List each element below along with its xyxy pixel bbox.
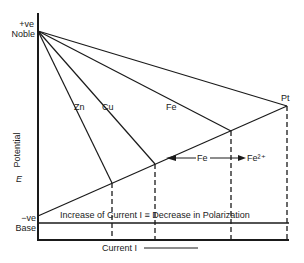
y-axis-label: Potential xyxy=(12,132,22,167)
pt-label: Pt xyxy=(281,93,290,103)
pt-line xyxy=(38,31,287,106)
reaction-left-label: Fe xyxy=(197,153,208,163)
arrow-right-icon xyxy=(238,155,246,161)
arrow-left-icon xyxy=(166,155,176,161)
y-top-label: Noble xyxy=(11,29,35,39)
cu-line xyxy=(38,31,155,164)
x-axis-label: Current I xyxy=(102,243,137,253)
polarization-diagram: +ve Noble Potential E −ve Base Zn Cu Fe … xyxy=(0,0,304,263)
y-bottom-label: Base xyxy=(15,223,36,233)
reaction-right-label: Fe²⁺ xyxy=(247,153,266,163)
y-bottom-sign: −ve xyxy=(21,213,36,223)
y-axis-symbol: E xyxy=(16,174,23,184)
fe-label: Fe xyxy=(166,102,177,112)
y-top-sign: +ve xyxy=(19,19,34,29)
annotation-label: Increase of Current I ≡ Decrease in Pola… xyxy=(60,210,250,220)
cu-label: Cu xyxy=(102,102,114,112)
zn-label: Zn xyxy=(74,102,85,112)
